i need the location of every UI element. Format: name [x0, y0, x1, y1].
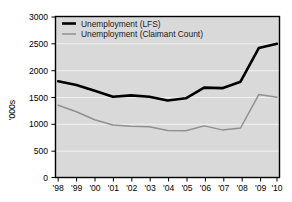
y-axis-title: '000s: [7, 100, 17, 120]
y-tick-label-1500: 1500: [29, 93, 48, 103]
unemployment-chart-figure: 3000 2500 2000 1500 1000 500 0 '000s: [0, 0, 292, 202]
legend-label-lfs: Unemployment (LFS): [81, 19, 161, 29]
x-tick-label-00: '00: [89, 183, 100, 193]
x-tick-label-05: '05: [181, 183, 192, 193]
x-tick-label-04: '04: [163, 183, 174, 193]
x-tick-label-02: '02: [126, 183, 137, 193]
x-tick-label-03: '03: [145, 183, 156, 193]
x-tick-label-08: '08: [237, 183, 248, 193]
y-tick-label-3000: 3000: [29, 12, 48, 22]
x-tick-label-99: '99: [71, 183, 82, 193]
y-tick-label-2500: 2500: [29, 39, 48, 49]
x-tick-label-10: '10: [271, 183, 282, 193]
legend-label-claimant-count: Unemployment (Claimant Count): [81, 29, 203, 39]
x-tick-label-06: '06: [200, 183, 211, 193]
line-chart: 3000 2500 2000 1500 1000 500 0 '000s: [0, 0, 292, 202]
x-tick-label-09: '09: [255, 183, 266, 193]
y-tick-label-500: 500: [34, 146, 49, 156]
x-tick-label-01: '01: [108, 183, 119, 193]
x-tick-label-98: '98: [53, 183, 64, 193]
x-tick-label-07: '07: [218, 183, 229, 193]
y-tick-label-2000: 2000: [29, 66, 48, 76]
y-tick-label-1000: 1000: [29, 119, 48, 129]
y-tick-label-0: 0: [43, 173, 48, 183]
